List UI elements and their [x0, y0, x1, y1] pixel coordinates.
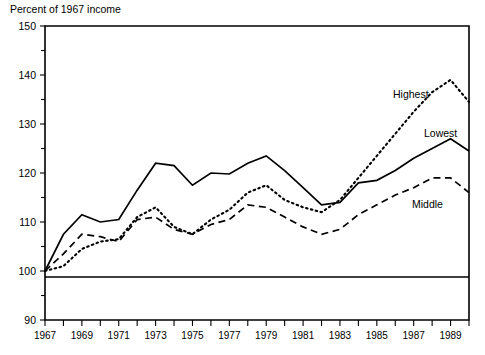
y-axis-ticks: 90100110120130140150	[18, 20, 45, 326]
y-tick-label: 140	[18, 69, 36, 81]
x-tick-label: 1975	[181, 330, 204, 341]
y-tick-label: 120	[18, 167, 36, 179]
series-line-highest	[45, 80, 469, 271]
y-tick-label: 90	[24, 314, 36, 326]
x-tick-label: 1987	[403, 330, 426, 341]
x-tick-label: 1983	[329, 330, 352, 341]
y-axis-title: Percent of 1967 income	[10, 3, 121, 15]
y-tick-label: 130	[18, 118, 36, 130]
chart-figure: Percent of 1967 income 90100110120130140…	[0, 0, 485, 355]
series-line-lowest	[45, 139, 469, 271]
x-tick-label: 1989	[439, 330, 462, 341]
x-axis-ticks: 1967196919711973197519771979198119831985…	[34, 320, 469, 341]
x-tick-label: 1973	[144, 330, 167, 341]
x-tick-label: 1967	[34, 330, 57, 341]
x-tick-label: 1977	[218, 330, 241, 341]
plot-frame	[45, 26, 469, 320]
series-label-middle: Middle	[412, 198, 443, 210]
x-tick-label: 1971	[108, 330, 131, 341]
x-tick-label: 1981	[292, 330, 315, 341]
y-tick-label: 150	[18, 20, 36, 32]
line-chart: Percent of 1967 income 90100110120130140…	[0, 0, 485, 355]
series-label-lowest: Lowest	[424, 127, 457, 139]
x-tick-label: 1979	[255, 330, 278, 341]
x-tick-label: 1969	[71, 330, 94, 341]
y-tick-label: 100	[18, 265, 36, 277]
x-tick-label: 1985	[366, 330, 389, 341]
series-line-middle	[45, 178, 469, 271]
y-tick-label: 110	[19, 216, 36, 228]
series-label-highest: Highest	[393, 88, 429, 100]
data-series-group	[45, 80, 469, 271]
